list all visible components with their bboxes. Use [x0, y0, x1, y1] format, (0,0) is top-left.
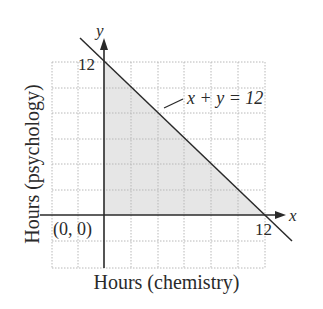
x-axis-symbol: x [288, 206, 297, 225]
y-tick-12: 12 [78, 55, 95, 74]
y-axis-title: Hours (psychology) [21, 84, 44, 243]
origin-label: (0, 0) [53, 219, 92, 240]
x-axis-arrow-icon [275, 211, 286, 219]
x-tick-12: 12 [255, 220, 272, 239]
y-axis-symbol: y [94, 21, 104, 40]
x-axis-title: Hours (chemistry) [0, 271, 323, 294]
label-leader-line [164, 99, 183, 108]
line-equation-label: x + y = 12 [186, 88, 263, 108]
chart-canvas: y x 12 12 (0, 0) x + y = 12 [0, 0, 323, 309]
